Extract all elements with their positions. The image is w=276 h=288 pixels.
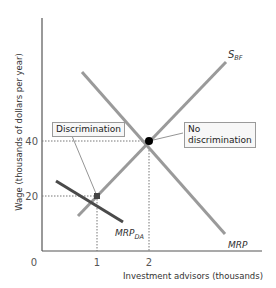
- no-discrimination-line2: discrimination: [188, 135, 252, 146]
- y-axis-label: Wage (thousands of dollars per year): [14, 53, 24, 211]
- y-tick-20: 20: [25, 191, 38, 202]
- mrp-da-curve: [56, 181, 123, 222]
- discrimination-leader: [72, 136, 97, 196]
- mrp-label: MRP: [228, 240, 248, 250]
- mrp-da-label: MRPDA: [115, 228, 144, 241]
- discrimination-point: [94, 193, 100, 199]
- no-discrimination-point: [145, 137, 153, 145]
- discrimination-callout: Discrimination: [52, 122, 125, 137]
- y-tick-40: 40: [25, 136, 38, 147]
- origin-label: 0: [31, 257, 37, 268]
- no-discrimination-callout: No discrimination: [184, 122, 256, 148]
- sbf-label: SBF: [228, 49, 243, 62]
- no-discrimination-line1: No: [188, 124, 252, 135]
- x-tick-2: 2: [146, 257, 152, 268]
- x-axis-label: Investment advisors (thousands): [123, 271, 263, 281]
- x-tick-1: 1: [94, 257, 100, 268]
